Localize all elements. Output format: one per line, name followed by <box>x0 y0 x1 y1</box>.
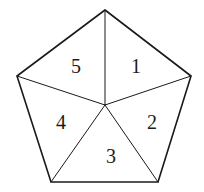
region-label-1: 1 <box>131 55 141 77</box>
region-label-5: 5 <box>71 55 81 77</box>
region-label-2: 2 <box>147 111 157 133</box>
pentagon-svg: 1 2 3 4 5 <box>0 0 204 192</box>
spoke-right <box>105 76 191 105</box>
pentagon-diagram: 1 2 3 4 5 <box>0 0 204 192</box>
pentagon-outline <box>17 10 191 182</box>
region-label-4: 4 <box>56 111 66 133</box>
region-label-3: 3 <box>106 145 116 167</box>
spoke-left <box>17 76 105 105</box>
